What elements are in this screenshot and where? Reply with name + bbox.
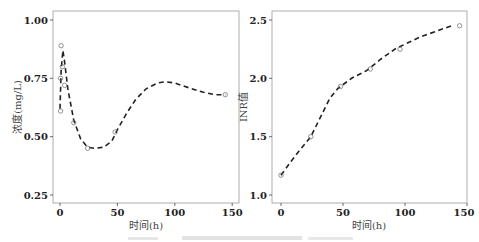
left-y-axis: 1.00 0.75 0.50 0.25 [24,15,53,201]
left-xtick: 0 [57,207,64,218]
inr-dashed-line [281,26,451,175]
right-y-axis: 2.5 2.0 1.5 1.0 [250,15,272,201]
right-xtick: 50 [336,207,350,218]
right-ytick: 1.5 [250,131,267,142]
concentration-chart: 1.00 0.75 0.50 0.25 0 50 100 150 时间(h) 浓… [11,11,243,231]
left-plot-frame [53,11,239,203]
data-point [309,135,313,139]
data-point [457,24,461,28]
right-xtick: 100 [395,207,416,218]
left-xtick: 50 [110,207,124,218]
right-ytick: 2.0 [250,73,267,84]
right-xtick: 0 [278,207,285,218]
right-ytick: 1.0 [250,190,267,201]
left-x-axis: 0 50 100 150 [57,203,243,218]
concentration-points [58,44,227,151]
data-point [398,47,402,51]
right-ytick: 2.5 [250,15,267,26]
data-point [338,84,342,88]
right-x-axis-label: 时间(h) [352,219,386,231]
data-point [85,146,89,150]
concentration-fit-curve [60,50,225,148]
left-x-axis-label: 时间(h) [129,219,163,231]
left-ytick: 1.00 [24,15,48,26]
data-point [58,109,62,113]
left-xtick: 100 [164,207,185,218]
data-point [59,44,63,48]
figure-caption-fragment [128,236,353,240]
right-plot-frame [272,11,467,203]
right-xtick: 150 [454,207,475,218]
inr-points [279,24,462,178]
left-ytick: 0.25 [24,190,48,201]
left-xtick: 150 [222,207,243,218]
figure: 1.00 0.75 0.50 0.25 0 50 100 150 时间(h) 浓… [0,0,479,242]
right-y-axis-label: INR值 [237,92,249,122]
right-x-axis: 0 50 100 150 [278,203,475,218]
data-point [62,83,66,87]
left-ytick: 0.75 [24,73,48,84]
inr-chart: 2.5 2.0 1.5 1.0 0 50 100 150 时间(h) INR值 [237,11,474,231]
left-y-axis-label: 浓度(mg/L) [11,80,23,134]
left-ytick: 0.50 [24,131,48,142]
